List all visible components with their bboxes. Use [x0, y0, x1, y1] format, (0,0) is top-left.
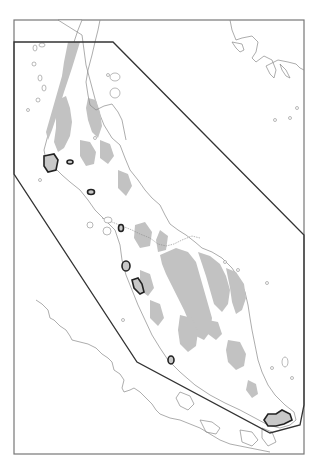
site-marker — [168, 356, 174, 364]
site-marker — [88, 190, 95, 195]
site-marker — [119, 225, 124, 232]
site-marker — [44, 154, 58, 172]
peninsula-landmass — [44, 20, 296, 428]
site-marker — [67, 160, 73, 164]
site-marker — [122, 261, 130, 271]
map-canvas — [0, 0, 319, 470]
